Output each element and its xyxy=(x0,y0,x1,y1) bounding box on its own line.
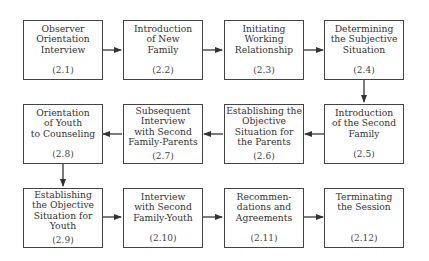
step-box-2-4: Determining the Subjective Situation (2.… xyxy=(324,20,404,80)
step-number: (2.1) xyxy=(24,65,102,75)
step-number: (2.9) xyxy=(24,235,102,245)
step-box-2-3: Initiating Working Relationship (2.3) xyxy=(224,20,304,80)
step-box-2-8: Orientation of Youth to Counseling (2.8) xyxy=(23,104,103,164)
step-label: Initiating Working Relationship xyxy=(225,24,303,55)
step-label: Recommen- dations and Agreements xyxy=(225,192,303,223)
step-box-2-10: Interview with Second Family-Youth (2.10… xyxy=(123,188,203,248)
step-number: (2.11) xyxy=(225,233,303,243)
step-label: Observer Orientation Interview xyxy=(24,24,102,55)
step-number: (2.12) xyxy=(325,233,403,243)
step-number: (2.7) xyxy=(124,151,202,161)
step-label: Interview with Second Family-Youth xyxy=(124,192,202,223)
step-label: Orientation of Youth to Counseling xyxy=(24,108,102,139)
step-box-2-9: Establishing the Objective Situation for… xyxy=(23,188,103,248)
step-box-2-12: Terminating the Session (2.12) xyxy=(324,188,404,248)
step-number: (2.10) xyxy=(124,233,202,243)
step-box-2-2: Introduction of New Family (2.2) xyxy=(123,20,203,80)
step-label: Establishing the Objective Situation for… xyxy=(24,190,102,232)
step-box-2-1: Observer Orientation Interview (2.1) xyxy=(23,20,103,80)
step-box-2-11: Recommen- dations and Agreements (2.11) xyxy=(224,188,304,248)
step-number: (2.4) xyxy=(325,65,403,75)
step-label: Subsequent Interview with Second Family-… xyxy=(124,106,202,148)
step-number: (2.8) xyxy=(24,149,102,159)
step-label: Introduction of the Second Family xyxy=(325,108,403,139)
step-label: Determining the Subjective Situation xyxy=(325,24,403,55)
step-box-2-5: Introduction of the Second Family (2.5) xyxy=(324,104,404,164)
step-number: (2.3) xyxy=(225,65,303,75)
step-label: Introduction of New Family xyxy=(124,24,202,55)
step-number: (2.6) xyxy=(225,151,303,161)
step-label: Establishing the Objective Situation for… xyxy=(225,106,303,148)
step-label: Terminating the Session xyxy=(325,192,403,213)
step-number: (2.2) xyxy=(124,65,202,75)
step-box-2-7: Subsequent Interview with Second Family-… xyxy=(123,104,203,164)
step-number: (2.5) xyxy=(325,149,403,159)
step-box-2-6: Establishing the Objective Situation for… xyxy=(224,104,304,164)
